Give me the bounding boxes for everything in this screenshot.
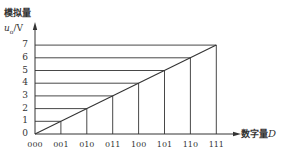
- y-tick-label: 1: [18, 116, 28, 125]
- x-tick-label: 010: [76, 140, 98, 149]
- x-axis-title: 数字量D: [241, 129, 276, 139]
- x-tick-label: 001: [50, 140, 72, 149]
- y-tick-label: 2: [18, 104, 28, 113]
- x-tick-label: 101: [154, 140, 176, 149]
- x-tick-label: 000: [24, 140, 46, 149]
- x-tick-label: 011: [102, 140, 124, 149]
- dac-transfer-chart: 模拟量 uo/V 01234567 0000010100111001011101…: [0, 0, 282, 156]
- y-axis-unit-text: /V: [13, 23, 23, 33]
- y-tick-label: 5: [18, 66, 28, 75]
- y-tick-label: 3: [18, 91, 28, 100]
- x-tick-label: 111: [205, 140, 227, 149]
- y-tick-label: 0: [18, 129, 28, 138]
- y-axis-unit: uo/V: [4, 24, 23, 36]
- chart-plot-area: [0, 0, 282, 156]
- x-tick-label: 100: [128, 140, 150, 149]
- x-axis-arrow-icon: [233, 132, 241, 136]
- y-tick-label: 6: [18, 53, 28, 62]
- y-axis-title: 模拟量: [4, 9, 31, 18]
- x-axis-title-text: 数字量: [241, 129, 268, 139]
- x-tick-label: 110: [179, 140, 201, 149]
- y-tick-label: 4: [18, 78, 28, 87]
- x-axis-var: D: [268, 128, 276, 139]
- y-tick-label: 7: [18, 40, 28, 49]
- transfer-ramp-line: [35, 45, 216, 134]
- y-axis-arrow-icon: [33, 22, 37, 30]
